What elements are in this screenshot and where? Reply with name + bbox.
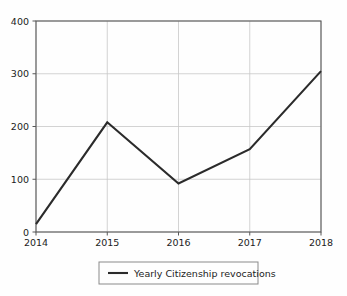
line-chart-figure: 0 100 200 300 400 2014 2015 2016 2017 20… [0, 0, 347, 296]
legend-entry-label: Yearly Citizenship revocations [133, 268, 276, 279]
x-tick-label-2017: 2017 [238, 237, 262, 248]
chart-legend[interactable]: Yearly Citizenship revocations [99, 262, 276, 284]
chart-container: 0 100 200 300 400 2014 2015 2016 2017 20… [0, 0, 347, 296]
x-tick-label-2018: 2018 [309, 237, 333, 248]
y-tick-label-300: 300 [11, 68, 29, 79]
y-tick-label-0: 0 [23, 227, 29, 238]
x-tick-label-2015: 2015 [95, 237, 119, 248]
x-tick-label-2016: 2016 [166, 237, 190, 248]
x-tick-label-2014: 2014 [24, 237, 48, 248]
y-tick-label-400: 400 [11, 16, 29, 27]
y-tick-label-200: 200 [11, 121, 29, 132]
y-tick-label-100: 100 [11, 174, 29, 185]
